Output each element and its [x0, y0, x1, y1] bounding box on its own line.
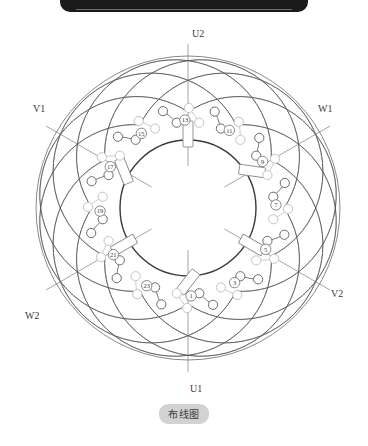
slot-number-5: 5: [264, 246, 267, 253]
slot-number-19: 19: [97, 207, 104, 214]
terminal-label-W1: W1: [318, 103, 332, 114]
slot-number-17: 17: [107, 163, 114, 170]
slot-number-15: 15: [138, 130, 145, 137]
stator-winding-diagram: 1357911131517192123 U2U1V1V2W1W2: [0, 0, 368, 446]
slot-number-1: 1: [189, 292, 192, 299]
slot-number-9: 9: [261, 158, 264, 165]
wiring-diagram-stage: 1357911131517192123 U2U1V1V2W1W2: [0, 0, 368, 446]
terminal-label-U2: U2: [192, 28, 204, 39]
slot-number-11: 11: [226, 127, 232, 134]
terminal-label-V1: V1: [33, 103, 45, 114]
slot-number-23: 23: [143, 282, 150, 289]
figure-caption: 布线图: [0, 404, 368, 424]
slot-number-13: 13: [182, 116, 189, 123]
terminal-labels: U2U1V1V2W1W2: [25, 28, 343, 394]
terminal-label-W2: W2: [25, 310, 39, 321]
terminal-label-V2: V2: [331, 288, 343, 299]
caption-pill: 布线图: [159, 404, 209, 424]
terminal-label-U1: U1: [190, 383, 202, 394]
slot-number-3: 3: [233, 279, 236, 286]
slot-number-21: 21: [110, 251, 117, 258]
